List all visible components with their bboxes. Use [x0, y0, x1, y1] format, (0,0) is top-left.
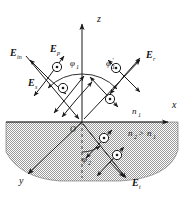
svg-text:′: ′ — [112, 56, 114, 64]
svg-text:E: E — [49, 43, 57, 54]
svg-text:p: p — [56, 50, 60, 56]
svg-text:E: E — [9, 47, 17, 58]
svg-text:φ: φ — [106, 58, 111, 68]
svg-text:2: 2 — [88, 160, 91, 166]
optics-diagram-figure: z x y O n 1 n 2 > n 1 φ 1 φ 1 ′ φ 2 E in… — [0, 0, 186, 201]
svg-text:1: 1 — [76, 64, 79, 70]
svg-text:2: 2 — [134, 134, 137, 140]
svg-text:r: r — [153, 56, 156, 62]
reflected-field-vectors-inner — [90, 77, 118, 107]
svg-text:n: n — [132, 106, 137, 116]
svg-text:E: E — [145, 49, 153, 60]
svg-text:in: in — [17, 54, 22, 60]
diagram-canvas: z x y O n 1 n 2 > n 1 φ 1 φ 1 ′ φ 2 E in… — [0, 0, 186, 201]
svg-text:n: n — [128, 128, 133, 138]
svg-text:φ: φ — [82, 154, 87, 164]
angle-label-phi-incident: φ 1 — [70, 58, 79, 70]
axis-label-x: x — [171, 99, 177, 110]
svg-text:s: s — [35, 84, 38, 90]
svg-text:E: E — [27, 77, 35, 88]
svg-text:E: E — [131, 177, 139, 188]
svg-text:1: 1 — [153, 134, 156, 140]
axis-label-y: y — [18, 175, 24, 186]
origin-label: O — [70, 125, 76, 134]
svg-text:n: n — [147, 128, 152, 138]
field-label-E-transmitted: E t — [131, 177, 141, 190]
field-label-E-reflected: E r — [145, 49, 156, 62]
field-label-E-s: E s — [27, 77, 38, 90]
svg-text:t: t — [139, 184, 141, 190]
upper-medium-index-label: n 1 — [132, 106, 141, 118]
svg-text:>: > — [138, 128, 144, 138]
axis-label-z: z — [96, 13, 101, 24]
angle-label-phi-reflected: φ 1 ′ — [106, 56, 115, 70]
field-label-E-incident: E in — [9, 47, 22, 60]
svg-text:1: 1 — [138, 112, 141, 118]
svg-text:1: 1 — [112, 64, 115, 70]
svg-text:φ: φ — [70, 58, 75, 68]
field-label-E-p: E p — [49, 43, 60, 56]
